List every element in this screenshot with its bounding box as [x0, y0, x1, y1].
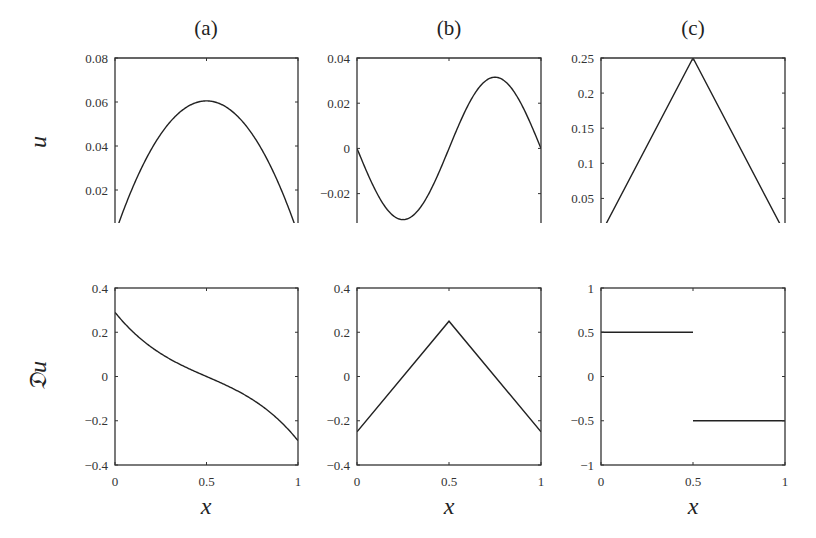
- plot-line: [601, 58, 785, 234]
- data-curve: [357, 77, 541, 219]
- plot-line: [115, 312, 298, 440]
- x-tick-label: 0: [354, 474, 361, 489]
- y-tick-label: 0.05: [571, 191, 594, 206]
- y-tick-label: −0.2: [84, 413, 108, 428]
- chart-c-top: 0.050.10.150.20.25: [571, 51, 785, 234]
- x-axis-label-b: x: [443, 493, 455, 519]
- row-label-u: u: [25, 136, 51, 148]
- axes-frame: [115, 58, 298, 223]
- chart-b-bottom: −0.4−0.200.20.400.51: [326, 281, 544, 490]
- x-tick-label: 1: [782, 474, 789, 489]
- plot-line: [357, 321, 541, 432]
- y-tick-label: 0.2: [578, 86, 594, 101]
- panel-title-b: (b): [437, 16, 462, 40]
- x-tick-label: 0.5: [441, 474, 457, 489]
- x-tick-label: 1: [538, 474, 545, 489]
- x-axis-label-c: x: [687, 493, 699, 519]
- y-tick-label: 0.25: [571, 51, 594, 66]
- y-tick-label: 0.08: [85, 51, 108, 66]
- axes-frame: [601, 58, 785, 223]
- y-tick-label: −1: [580, 458, 594, 473]
- y-tick-label: 0.5: [578, 325, 594, 340]
- y-tick-label: 0.02: [85, 183, 108, 198]
- data-line: [601, 58, 785, 234]
- y-tick-label: 0.02: [327, 96, 350, 111]
- y-tick-label: −0.5: [570, 413, 594, 428]
- x-tick-label: 0: [112, 474, 119, 489]
- axes-frame: [601, 288, 785, 465]
- y-tick-label: 0.2: [334, 325, 350, 340]
- axes-frame: [357, 58, 541, 223]
- x-tick-label: 0.5: [685, 474, 701, 489]
- y-tick-label: 0.04: [327, 51, 350, 66]
- y-tick-label: 0: [588, 369, 595, 384]
- y-tick-label: −0.02: [320, 186, 350, 201]
- chart-b-top: −0.0200.020.04: [320, 51, 541, 224]
- data-line: [357, 321, 541, 432]
- y-tick-label: 0.15: [571, 121, 594, 136]
- plot-line: [115, 101, 298, 234]
- row-label-du: 𝔇u: [25, 361, 51, 391]
- plot-line: [357, 77, 541, 219]
- y-tick-label: 0.4: [92, 281, 109, 296]
- y-tick-label: 0.04: [85, 139, 108, 154]
- y-tick-label: −0.2: [326, 413, 350, 428]
- y-tick-label: 0: [344, 369, 351, 384]
- x-tick-label: 1: [295, 474, 302, 489]
- chart-c-bottom: −1−0.500.5100.51: [570, 281, 788, 490]
- x-tick-label: 0.5: [198, 474, 214, 489]
- y-tick-label: 0.06: [85, 95, 108, 110]
- y-tick-label: −0.4: [84, 458, 108, 473]
- axes-frame: [357, 288, 541, 465]
- data-curve: [115, 312, 298, 440]
- y-tick-label: 0: [344, 141, 351, 156]
- data-curve: [115, 101, 298, 234]
- panel-title-c: (c): [681, 16, 704, 40]
- figure: (a) (b) (c) u 𝔇u 0.020.040.060.08 −0.020…: [0, 0, 816, 538]
- chart-a-top: 0.020.040.060.08: [85, 51, 298, 235]
- x-axis-label-a: x: [200, 493, 212, 519]
- y-tick-label: 0.2: [92, 325, 108, 340]
- plot-line: [601, 332, 785, 421]
- y-tick-label: 0: [102, 369, 109, 384]
- y-tick-label: 0.4: [334, 281, 351, 296]
- y-tick-label: −0.4: [326, 458, 350, 473]
- panel-title-a: (a): [194, 16, 217, 40]
- x-tick-label: 0: [598, 474, 605, 489]
- chart-a-bottom: −0.4−0.200.20.400.51: [84, 281, 301, 490]
- y-tick-label: 1: [588, 281, 595, 296]
- y-tick-label: 0.1: [578, 156, 594, 171]
